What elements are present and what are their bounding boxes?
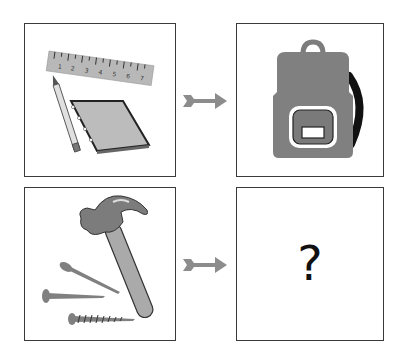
nail-icon — [42, 289, 105, 303]
notebook-icon — [71, 101, 149, 154]
hammer-nails-illustration — [25, 188, 177, 342]
backpack-icon — [237, 24, 385, 178]
arrow-right-icon — [183, 90, 229, 112]
panel-backpack — [236, 23, 384, 177]
panel-hammer-nails — [24, 187, 176, 341]
panel-answer[interactable]: ? — [236, 187, 384, 341]
screw-icon — [68, 313, 135, 325]
question-mark: ? — [237, 235, 383, 291]
arrow-right-icon — [183, 254, 229, 276]
pencil-icon — [50, 74, 80, 152]
panel-school-supplies: 1 2 3 4 5 6 7 — [24, 23, 176, 177]
school-supplies-illustration: 1 2 3 4 5 6 7 — [25, 24, 177, 178]
ruler-icon: 1 2 3 4 5 6 7 — [46, 51, 154, 86]
hammer-icon — [80, 196, 155, 320]
nail-icon — [58, 260, 120, 294]
